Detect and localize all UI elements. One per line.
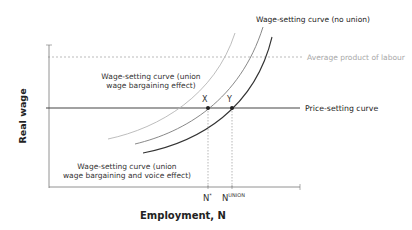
- point-x-label: X: [202, 95, 208, 104]
- y-axis-title: Real wage: [17, 88, 28, 143]
- point-y-label: Y: [226, 95, 232, 104]
- n-union-tick-label: NUNION: [222, 192, 245, 203]
- point-x: [206, 106, 210, 110]
- union-voice-label-1: Wage-setting curve (union: [77, 162, 177, 171]
- average-product-label: Average product of labour: [307, 53, 406, 62]
- price-setting-label: Price-setting curve: [305, 104, 378, 113]
- no-union-curve-label: Wage-setting curve (no union): [256, 15, 370, 24]
- union-wage-label-1: Wage-setting curve (union: [101, 72, 201, 81]
- union-wage-label-2: wage bargaining effect): [106, 81, 195, 90]
- n-star-tick-label: N*: [203, 192, 212, 203]
- union-voice-label-2: wage bargaining and voice effect): [63, 171, 191, 180]
- x-axis-title: Employment, N: [140, 210, 226, 221]
- labour-market-diagram: X Y Average product of labour Price-sett…: [0, 0, 412, 230]
- point-y: [230, 106, 234, 110]
